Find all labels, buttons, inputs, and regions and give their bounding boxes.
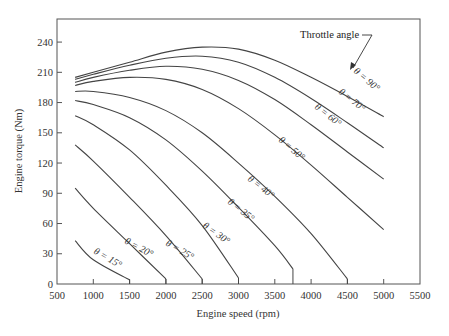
x-tick-label: 2000 [155,290,176,301]
torque-curve [75,56,384,148]
y-axis-ticks: 0306090120150180210240 [37,37,62,290]
torque-speed-chart: 0306090120150180210240 50010001500200025… [0,0,449,336]
x-axis-title: Engine speed (rpm) [197,308,280,320]
y-tick-label: 0 [48,279,53,290]
x-axis-ticks: 5001000150020002500300035004000450050005… [49,279,430,301]
curve-label: θ = 50° [277,134,308,162]
y-tick-label: 30 [43,248,54,259]
x-tick-label: 4500 [337,290,358,301]
x-tick-label: 5000 [373,290,394,301]
torque-curve [75,91,347,279]
torque-curve [75,145,202,279]
curve-label: θ = 15° [92,245,124,270]
x-tick-label: 1000 [83,290,104,301]
x-tick-label: 3000 [228,290,249,301]
x-tick-label: 1500 [119,290,140,301]
plot-frame [57,19,420,284]
y-tick-label: 180 [37,97,53,108]
y-tick-label: 210 [37,67,53,78]
curve-label: θ = 20° [123,235,155,259]
curve-label: θ = 60° [313,101,344,129]
curve-label: θ = 25° [164,237,196,262]
throttle-curves: θ = 90°θ = 70°θ = 60°θ = 50°θ = 40°θ = 3… [75,47,384,284]
x-tick-label: 2500 [192,290,213,301]
curve-label: θ = 35° [226,196,257,224]
x-tick-label: 3500 [264,290,285,301]
y-tick-label: 60 [43,218,54,229]
throttle-angle-annotation: Throttle angle [300,29,360,40]
y-tick-label: 90 [43,188,54,199]
x-tick-label: 5500 [410,290,431,301]
y-tick-label: 150 [37,127,53,138]
curve-label: θ = 90° [352,65,383,93]
y-tick-label: 120 [37,158,53,169]
curve-label: θ = 30° [201,220,232,247]
x-tick-label: 500 [49,290,65,301]
curve-label: θ = 70° [337,86,368,114]
y-axis-title: Engine torque (Nm) [13,108,25,193]
y-tick-label: 240 [37,37,53,48]
x-tick-label: 4000 [301,290,322,301]
torque-curve [75,47,384,117]
curve-label: θ = 40° [246,173,277,201]
